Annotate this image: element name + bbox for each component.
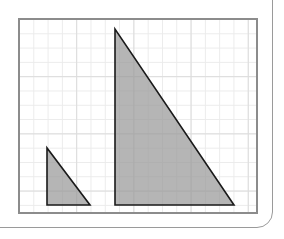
large-triangle [115,29,234,205]
shapes-layer [20,20,256,212]
graph-grid-panel [18,18,258,214]
small-triangle [47,148,90,205]
figure-canvas [0,0,284,239]
